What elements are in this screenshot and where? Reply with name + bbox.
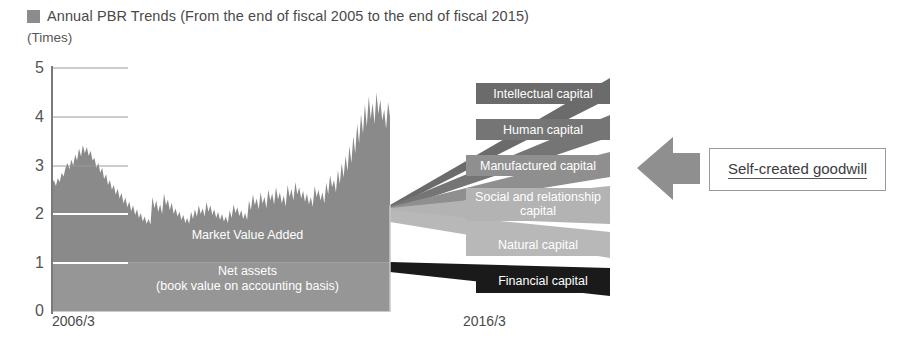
callout-self-created-goodwill: Self-created goodwill <box>709 148 886 191</box>
chart-figure: Annual PBR Trends (From the end of fisca… <box>0 0 901 341</box>
capital-label-financial: Financial capital <box>476 268 610 293</box>
label-net-assets-line1: Net assets <box>130 264 365 279</box>
capital-label-human: Human capital <box>476 119 610 140</box>
label-net-assets-line2: (book value on accounting basis) <box>130 279 365 294</box>
axis-ticks <box>52 68 128 166</box>
capital-wedges <box>390 78 610 296</box>
capital-label-manufactured: Manufactured capital <box>466 155 610 176</box>
capital-label-intellectual: Intellectual capital <box>476 83 610 104</box>
label-market-value-added: Market Value Added <box>155 228 340 243</box>
label-net-assets: Net assets (book value on accounting bas… <box>130 264 365 294</box>
capital-label-natural: Natural capital <box>466 233 610 256</box>
left-arrow-icon <box>637 137 700 200</box>
capital-label-social: Social and relationship capital <box>466 188 610 221</box>
callout-label: Self-created goodwill <box>728 160 867 179</box>
